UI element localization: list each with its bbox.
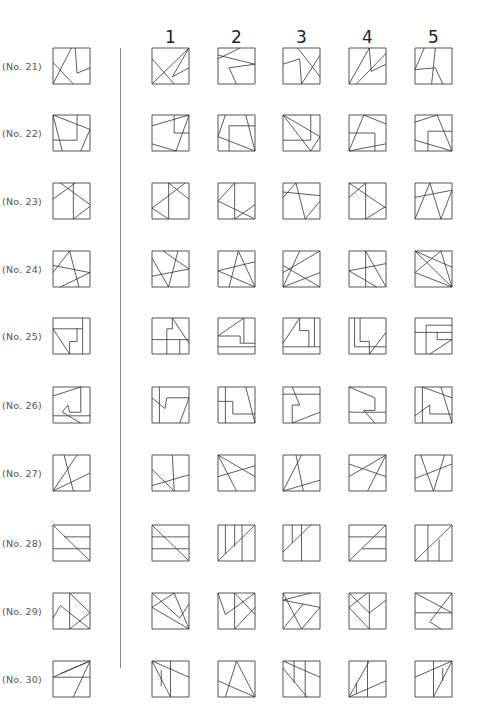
reference-figure	[53, 593, 90, 629]
column-number-3: 3	[283, 27, 320, 47]
question-number-label: (No. 25)	[2, 331, 48, 342]
answer-option-3[interactable]	[283, 251, 320, 287]
answer-option-2[interactable]	[218, 115, 255, 151]
reference-figure	[53, 183, 90, 219]
answer-option-3[interactable]	[283, 48, 320, 84]
answer-option-3[interactable]	[283, 593, 320, 629]
answer-option-5[interactable]	[415, 48, 452, 84]
answer-option-3[interactable]	[283, 183, 320, 219]
answer-option-5[interactable]	[415, 593, 452, 629]
answer-option-4[interactable]	[349, 593, 386, 629]
reference-figure	[53, 48, 90, 84]
answer-option-5[interactable]	[415, 251, 452, 287]
column-number-5: 5	[415, 27, 452, 47]
question-number-label: (No. 23)	[2, 196, 48, 207]
reference-figure	[53, 525, 90, 561]
reference-figure	[53, 455, 90, 491]
answer-option-4[interactable]	[349, 661, 386, 697]
answer-option-3[interactable]	[283, 525, 320, 561]
column-divider	[120, 48, 121, 668]
answer-option-5[interactable]	[415, 661, 452, 697]
answer-option-2[interactable]	[218, 183, 255, 219]
answer-option-1[interactable]	[152, 661, 189, 697]
answer-option-4[interactable]	[349, 183, 386, 219]
answer-option-4[interactable]	[349, 115, 386, 151]
reference-figure	[53, 661, 90, 697]
question-number-label: (No. 21)	[2, 61, 48, 72]
answer-option-2[interactable]	[218, 455, 255, 491]
answer-option-5[interactable]	[415, 525, 452, 561]
answer-option-1[interactable]	[152, 387, 189, 423]
reference-figure	[53, 115, 90, 151]
question-number-label: (No. 27)	[2, 468, 48, 479]
reference-figure	[53, 251, 90, 287]
answer-option-2[interactable]	[218, 251, 255, 287]
answer-option-1[interactable]	[152, 183, 189, 219]
answer-option-5[interactable]	[415, 115, 452, 151]
answer-option-1[interactable]	[152, 593, 189, 629]
answer-option-3[interactable]	[283, 318, 320, 354]
answer-option-5[interactable]	[415, 183, 452, 219]
answer-option-4[interactable]	[349, 318, 386, 354]
question-number-label: (No. 24)	[2, 264, 48, 275]
question-number-label: (No. 26)	[2, 400, 48, 411]
answer-option-2[interactable]	[218, 525, 255, 561]
answer-option-4[interactable]	[349, 525, 386, 561]
column-number-2: 2	[218, 27, 255, 47]
question-number-label: (No. 30)	[2, 674, 48, 685]
answer-option-2[interactable]	[218, 661, 255, 697]
answer-option-2[interactable]	[218, 593, 255, 629]
answer-option-2[interactable]	[218, 387, 255, 423]
question-number-label: (No. 22)	[2, 128, 48, 139]
answer-option-2[interactable]	[218, 48, 255, 84]
answer-option-5[interactable]	[415, 387, 452, 423]
reference-figure	[53, 318, 90, 354]
answer-option-3[interactable]	[283, 455, 320, 491]
question-number-label: (No. 28)	[2, 538, 48, 549]
answer-option-1[interactable]	[152, 251, 189, 287]
answer-option-1[interactable]	[152, 455, 189, 491]
answer-option-4[interactable]	[349, 455, 386, 491]
answer-option-2[interactable]	[218, 318, 255, 354]
answer-option-3[interactable]	[283, 387, 320, 423]
answer-option-4[interactable]	[349, 387, 386, 423]
column-number-1: 1	[152, 27, 189, 47]
answer-option-1[interactable]	[152, 48, 189, 84]
question-number-label: (No. 29)	[2, 606, 48, 617]
answer-option-3[interactable]	[283, 115, 320, 151]
answer-option-5[interactable]	[415, 318, 452, 354]
reference-figure	[53, 387, 90, 423]
answer-option-5[interactable]	[415, 455, 452, 491]
answer-option-1[interactable]	[152, 525, 189, 561]
answer-option-1[interactable]	[152, 115, 189, 151]
answer-option-4[interactable]	[349, 48, 386, 84]
answer-option-3[interactable]	[283, 661, 320, 697]
answer-option-4[interactable]	[349, 251, 386, 287]
column-number-4: 4	[349, 27, 386, 47]
answer-option-1[interactable]	[152, 318, 189, 354]
